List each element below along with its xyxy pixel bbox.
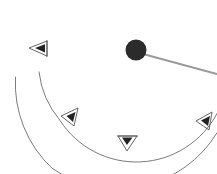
arc-diagram-svg: [0, 0, 217, 174]
diagram-canvas: [0, 0, 217, 174]
hub-circle: [126, 40, 147, 61]
canvas-background: [0, 0, 217, 174]
